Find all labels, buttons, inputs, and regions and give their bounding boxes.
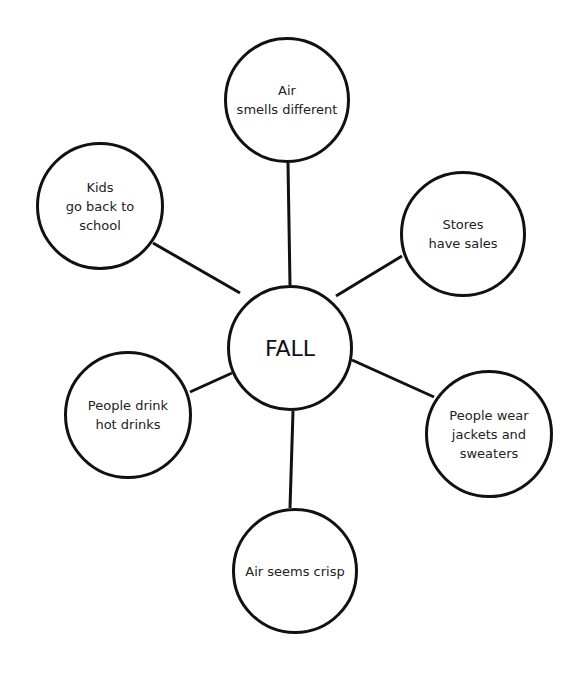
edge-stores-sales [336,256,402,296]
node-center-fall: FALL [227,285,353,411]
center-label: FALL [265,339,315,358]
node-air-smells-different: Air smells different [224,37,350,163]
node-label: Air seems crisp [245,562,344,581]
node-people-drink-hot-drinks: People drink hot drinks [64,351,192,479]
edge-air-smells [288,163,290,285]
node-people-wear-jackets: People wear jackets and sweaters [425,370,553,498]
node-label: People drink hot drinks [88,396,168,434]
node-label: Air smells different [237,81,338,119]
edge-air-crisp [290,411,293,508]
node-stores-have-sales: Stores have sales [400,171,526,297]
node-kids-go-back-to-school: Kids go back to school [36,142,164,270]
node-label: Kids go back to school [66,178,134,235]
node-label: Stores have sales [428,215,497,253]
edge-hot-drinks [190,373,232,392]
edge-kids-school [153,243,240,293]
node-label: People wear jackets and sweaters [449,406,528,463]
node-air-seems-crisp: Air seems crisp [232,508,358,634]
edge-jackets [352,360,434,397]
